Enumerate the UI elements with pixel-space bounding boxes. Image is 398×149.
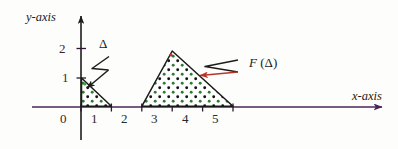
geometry-diagram bbox=[0, 0, 398, 149]
f-delta-argument: Δ bbox=[265, 55, 273, 70]
f-delta-annotation-label: F (Δ) bbox=[249, 56, 277, 69]
x-tick-label-5: 5 bbox=[212, 112, 219, 125]
f-delta-close-paren: ) bbox=[273, 55, 277, 70]
triangle-f-delta-apex-dot bbox=[169, 53, 172, 56]
y-axis-label: y-axis bbox=[26, 11, 56, 24]
figure-canvas: y-axis x-axis 2 1 0 1 2 3 4 5 Δ F (Δ) bbox=[0, 0, 398, 149]
delta-annotation-label: Δ bbox=[99, 37, 107, 50]
delta-leader-pointer bbox=[87, 70, 109, 88]
triangle-delta-shape bbox=[82, 78, 112, 106]
x-tick-label-4: 4 bbox=[182, 112, 189, 125]
triangle-f-delta-shape bbox=[142, 51, 233, 106]
triangle-delta-accent-dot bbox=[84, 83, 87, 86]
x-tick-label-0: 0 bbox=[60, 112, 67, 125]
f-delta-leader-zigzag bbox=[205, 60, 238, 72]
x-axis-label: x-axis bbox=[352, 90, 382, 103]
triangle-delta bbox=[82, 78, 112, 106]
x-tick-label-3: 3 bbox=[151, 112, 158, 125]
x-tick-label-1: 1 bbox=[91, 112, 98, 125]
triangle-f-delta bbox=[142, 51, 233, 106]
delta-leader-zigzag bbox=[92, 57, 109, 71]
x-tick-label-2: 2 bbox=[121, 112, 128, 125]
delta-leader-arrow bbox=[87, 57, 109, 89]
x-axis-label-text: x-axis bbox=[352, 89, 382, 103]
f-delta-function-name: F bbox=[249, 55, 257, 70]
y-tick-label-2: 2 bbox=[59, 42, 66, 55]
y-axis-label-text: y-axis bbox=[26, 10, 56, 24]
f-delta-leader-pointer bbox=[200, 72, 238, 76]
f-delta-leader-arrow bbox=[200, 60, 238, 76]
y-tick-label-1: 1 bbox=[62, 71, 69, 84]
